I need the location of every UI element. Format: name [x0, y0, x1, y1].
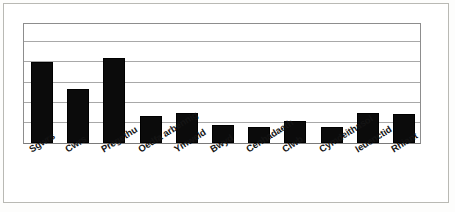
chart-outer-frame: SgwrsCwrsPregethuOedfa arbennigYmweldBwy…	[3, 3, 449, 203]
chart-screenshot: SgwrsCwrsPregethuOedfa arbennigYmweldBwy…	[0, 0, 455, 212]
gridline	[24, 21, 420, 22]
x-axis-labels-group: SgwrsCwrsPregethuOedfa arbennigYmweldBwy…	[23, 145, 421, 207]
